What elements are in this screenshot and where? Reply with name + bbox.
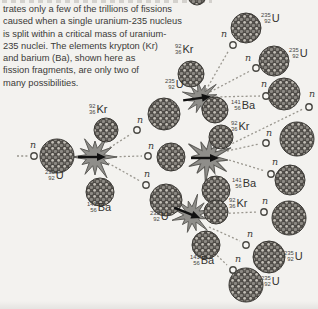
uranium-235-nucleus (275, 165, 305, 195)
krypton-fragment-nucleus (209, 125, 233, 149)
neutron-path (212, 96, 260, 97)
atomic-number: 56 (235, 184, 241, 190)
label-kr92: 9236Kr (229, 198, 247, 210)
krypton-fragment-nucleus (204, 200, 228, 224)
neutron-dot (253, 65, 259, 71)
neutron-dot (31, 153, 37, 159)
label-neutron: n (272, 157, 278, 166)
label-u235: 23592U (261, 13, 280, 25)
element-symbol: U (176, 79, 184, 90)
neutron-dot (261, 209, 267, 215)
label-u235: 23592U (284, 251, 303, 263)
label-u235: 23592U (261, 276, 280, 288)
uranium-235-nucleus (272, 201, 306, 235)
element-symbol: U (272, 13, 280, 24)
atomic-number: 56 (90, 208, 96, 214)
neutron-dot (306, 104, 312, 110)
element-symbol: Ba (201, 255, 214, 266)
fission-diagram (0, 0, 318, 309)
scan-shadow (0, 301, 318, 309)
uranium-235-nucleus (40, 139, 74, 173)
neutron-dot (243, 242, 249, 248)
label-neutron: n (262, 196, 268, 205)
label-neutron: n (148, 141, 154, 150)
atomic-number: 36 (229, 204, 235, 210)
label-kr92: 9236Kr (231, 121, 249, 133)
label-u235: 23592U (150, 211, 169, 223)
neutron-dot (263, 93, 269, 99)
uranium-235-nucleus (253, 241, 285, 273)
atomic-number: 92 (292, 54, 298, 60)
element-symbol: U (56, 170, 64, 181)
element-symbol: Kr (96, 104, 107, 115)
element-symbol: Kr (238, 121, 249, 132)
element-symbol: U (295, 251, 303, 262)
atomic-number: 92 (264, 19, 270, 25)
textbook-figure-fission-chain-reaction: trates only a few of the trillions of fi… (0, 0, 318, 309)
label-neutron: n (309, 89, 315, 98)
atomic-number: 56 (234, 106, 240, 112)
label-u235: 23592U (45, 170, 64, 182)
atomic-number: 92 (168, 85, 174, 91)
label-neutron: n (247, 229, 253, 238)
element-symbol: U (300, 48, 308, 59)
neutron-path (210, 71, 250, 92)
label-neutron: n (30, 140, 36, 149)
element-symbol: Kr (182, 44, 193, 55)
label-ba141: 14156Ba (231, 100, 255, 112)
neutron-dot (230, 42, 236, 48)
element-symbol: Ba (98, 202, 111, 213)
uranium-235-nucleus (231, 13, 261, 43)
element-symbol: Kr (236, 198, 247, 209)
element-symbol: Ba (242, 100, 255, 111)
element-symbol: U (161, 211, 169, 222)
atomic-number: 92 (48, 176, 54, 182)
atomic-number: 92 (287, 257, 293, 263)
neutron-path (227, 144, 259, 151)
label-kr92: 9236Kr (89, 104, 107, 116)
label-ba141: 14156Ba (190, 255, 214, 267)
atomic-number: 92 (153, 217, 159, 223)
element-symbol: Ba (243, 178, 256, 189)
label-neutron: n (261, 79, 267, 88)
atomic-number: 36 (89, 110, 95, 116)
element-symbol: U (272, 276, 280, 287)
atomic-number: 92 (264, 282, 270, 288)
uranium-235-nucleus (280, 122, 314, 156)
uranium-235-nucleus (148, 98, 180, 130)
clipped-nucleus (188, 0, 206, 5)
neutron-dot (143, 182, 149, 188)
uranium-235-nucleus (268, 78, 300, 110)
label-neutron: n (221, 29, 227, 38)
label-neutron: n (266, 128, 272, 137)
label-kr92: 9236Kr (175, 44, 193, 56)
label-neutron: n (144, 169, 150, 178)
label-ba141: 14156Ba (232, 178, 256, 190)
neutron-dot (263, 140, 269, 146)
neutron-dot (230, 267, 236, 273)
uranium-235-nucleus (259, 46, 289, 76)
atomic-number: 36 (175, 50, 181, 56)
label-u235: 23592U (289, 48, 308, 60)
barium-fragment-nucleus (202, 97, 228, 123)
label-neutron: n (245, 53, 251, 62)
uranium-235-nucleus (157, 143, 185, 171)
label-neutron: n (137, 115, 143, 124)
neutron-dot (134, 127, 140, 133)
atomic-number: 36 (231, 127, 237, 133)
krypton-fragment-nucleus (94, 118, 118, 142)
label-u235: 23592U (165, 79, 184, 91)
label-neutron: n (235, 254, 241, 263)
neutron-path (108, 163, 140, 181)
label-ba141: 14156Ba (87, 202, 111, 214)
neutron-path (229, 160, 265, 171)
neutron-dot (268, 171, 274, 177)
neutron-dot (145, 153, 151, 159)
atomic-number: 56 (193, 261, 199, 267)
